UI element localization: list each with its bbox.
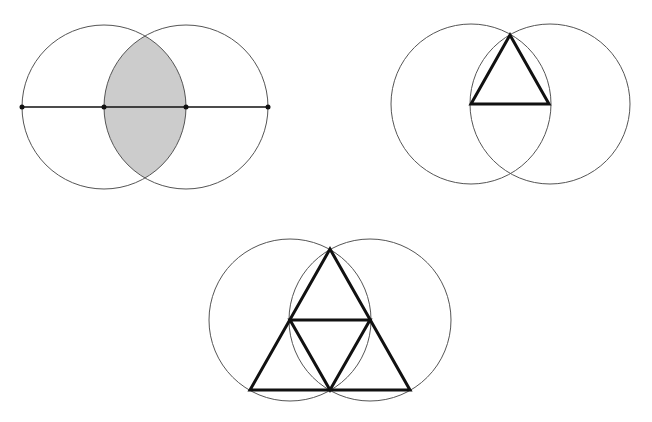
point-dot — [20, 105, 25, 110]
point-dot — [102, 105, 107, 110]
inner-triangle — [290, 320, 370, 390]
figure-vesica-piscis-diameter — [20, 25, 271, 189]
equilateral-triangle — [471, 35, 549, 104]
point-dot — [266, 105, 271, 110]
diagram-canvas — [0, 0, 652, 422]
figure-vesica-piscis-triangle — [391, 24, 630, 184]
figure-vesica-piscis-subdivided-triangle — [209, 239, 451, 401]
point-dot — [184, 105, 189, 110]
